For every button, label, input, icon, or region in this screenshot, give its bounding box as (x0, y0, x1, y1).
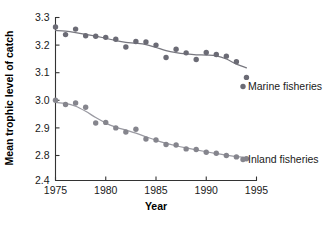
y-axis-title: Mean trophic level of catch (3, 31, 15, 166)
data-point (113, 37, 118, 42)
data-point (224, 53, 229, 58)
y-tick-label-3.2: 3.2 (35, 39, 50, 51)
data-point (163, 142, 168, 147)
data-point (103, 35, 108, 40)
y-axis-tick-labels: 2.42.82.93.03.13.23.3 (35, 11, 50, 186)
data-point (153, 42, 158, 47)
x-tick-label-1980: 1980 (94, 184, 118, 196)
data-point (183, 146, 188, 151)
data-point (73, 26, 78, 31)
data-point (194, 147, 199, 152)
legend-marker-marine (240, 84, 245, 89)
y-tick-label-3.3: 3.3 (35, 11, 50, 23)
data-series-layer (53, 24, 249, 161)
trend-curve-inland (56, 102, 247, 157)
data-point (224, 153, 229, 158)
data-point (173, 47, 178, 52)
y-tick-label-3.1: 3.1 (35, 66, 50, 78)
data-point (53, 98, 58, 103)
y-axis-tick-marks (56, 18, 60, 156)
trophic-level-scatter-chart: 2.42.82.93.03.13.23.3 197519801985199019… (0, 0, 329, 227)
x-tick-label-1995: 1995 (245, 184, 269, 196)
series-label-inland: Inland fisheries (248, 153, 319, 165)
data-point (204, 149, 209, 154)
data-point (153, 137, 158, 142)
data-point (83, 33, 88, 38)
data-point (214, 52, 219, 57)
data-point (73, 100, 78, 105)
data-point (183, 50, 188, 55)
x-axis-tick-marks (56, 177, 257, 181)
data-point (214, 151, 219, 156)
data-point (123, 129, 128, 134)
y-tick-label-3.0: 3.0 (35, 94, 50, 106)
series-label-marine: Marine fisheries (248, 80, 322, 92)
data-point (133, 127, 138, 132)
x-tick-label-1990: 1990 (195, 184, 219, 196)
data-point (143, 136, 148, 141)
x-tick-label-1975: 1975 (44, 184, 68, 196)
series-marine-fisheries (53, 24, 249, 80)
data-point (123, 44, 128, 49)
data-point (113, 125, 118, 130)
data-point (234, 59, 239, 64)
data-point (63, 102, 68, 107)
data-point (53, 24, 58, 29)
data-point (194, 57, 199, 62)
chart-figure: 2.42.82.93.03.13.23.3 197519801985199019… (0, 0, 329, 227)
data-point (163, 55, 168, 60)
data-point (234, 154, 239, 159)
data-point (103, 120, 108, 125)
y-tick-label-2.8: 2.8 (35, 149, 50, 161)
data-point (63, 32, 68, 37)
data-point (133, 39, 138, 44)
legend-marker-inland (240, 157, 245, 162)
inline-series-labels: Marine fisheries Inland fisheries (240, 80, 322, 165)
y-tick-label-2.9: 2.9 (35, 122, 50, 134)
x-tick-label-1985: 1985 (144, 184, 168, 196)
data-point (143, 39, 148, 44)
data-point (204, 50, 209, 55)
data-point (93, 120, 98, 125)
x-axis-tick-labels: 19751980198519901995 (44, 184, 269, 196)
x-axis-title: Year (145, 200, 167, 212)
data-point (93, 34, 98, 39)
data-point (173, 142, 178, 147)
series-inland-fisheries (53, 98, 249, 162)
data-point (83, 105, 88, 110)
